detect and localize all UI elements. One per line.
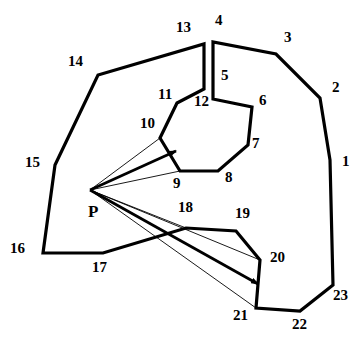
vertex-label-13: 13 — [176, 19, 191, 35]
vertex-label-21: 21 — [233, 307, 248, 323]
vertex-label-23: 23 — [333, 287, 348, 303]
vertex-label-14: 14 — [68, 53, 84, 69]
vertex-label-3: 3 — [284, 29, 292, 45]
vertex-label-20: 20 — [270, 249, 285, 265]
diagram-canvas: 1234567891011121314151617181920212223P — [0, 0, 361, 343]
vertex-label-10: 10 — [140, 115, 155, 131]
vertex-label-18: 18 — [178, 199, 193, 215]
vertex-label-6: 6 — [259, 92, 267, 108]
vertex-label-16: 16 — [10, 240, 26, 256]
ray-arrow-edge-20-21 — [90, 190, 258, 284]
vertex-label-11: 11 — [158, 86, 172, 102]
vertex-label-8: 8 — [225, 169, 233, 185]
vertex-label-19: 19 — [235, 205, 250, 221]
polygon-diagram: 1234567891011121314151617181920212223P — [0, 0, 361, 343]
vertex-label-22: 22 — [292, 316, 307, 332]
vertex-label-15: 15 — [25, 154, 40, 170]
vertex-label-7: 7 — [252, 135, 260, 151]
vertex-label-5: 5 — [221, 67, 229, 83]
viewpoint-label: P — [88, 202, 98, 221]
vertex-label-2: 2 — [332, 79, 340, 95]
vertex-label-17: 17 — [92, 259, 108, 275]
vertex-label-4: 4 — [215, 12, 223, 28]
vertex-label-12: 12 — [194, 93, 209, 109]
vertex-label-1: 1 — [342, 153, 350, 169]
ray-arrow-edge-9-10 — [90, 151, 176, 190]
polygon-boundary — [43, 42, 333, 311]
vertex-label-9: 9 — [173, 175, 181, 191]
